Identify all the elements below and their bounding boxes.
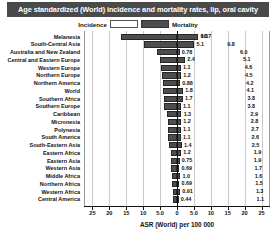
bar-value-mortality: 5.1 — [196, 41, 204, 48]
chart-legend: Incidence Mortality — [0, 19, 276, 29]
bar-incidence — [160, 57, 177, 63]
bar-incidence — [164, 103, 177, 109]
bar-value-mortality: 0.91 — [182, 188, 193, 195]
bar-incidence — [167, 111, 177, 117]
bar-value-incidence: 1.5 — [255, 180, 263, 187]
page-title: Age standardized (World) incidence and m… — [18, 5, 258, 14]
x-axis-title: ASR (World) per 100 000 — [84, 221, 270, 228]
bar-value-mortality: 0.44 — [181, 196, 192, 203]
bar-value-mortality: 2.4 — [187, 56, 195, 63]
bar-value-mortality: 0.69 — [182, 180, 193, 187]
bar-value-incidence: 2.8 — [251, 118, 259, 125]
bar-value-incidence: 1.6 — [255, 173, 263, 180]
legend-label-incidence: Incidence — [78, 21, 107, 28]
value-axis-ticks: 252015105.005.010152025 — [84, 207, 270, 217]
axis-tick-label: 15 — [123, 210, 129, 216]
legend-swatch-mortality — [141, 20, 169, 28]
axis-tick-label: 20 — [106, 210, 112, 216]
bar-incidence — [157, 49, 177, 55]
bar-incidence — [164, 96, 177, 102]
bar-value-incidence: 3.8 — [247, 95, 255, 102]
bar-value-incidence: 4.5 — [245, 72, 253, 79]
bar-value-incidence: 4.1 — [246, 87, 254, 94]
bar-incidence — [169, 142, 177, 148]
axis-tick-label: 25 — [89, 210, 95, 216]
bar-value-mortality: 1.2 — [183, 118, 191, 125]
plot-area: 16.76.39.85.16.00.785.12.44.61.14.51.24.… — [84, 31, 270, 207]
bar-value-incidence: 2.6 — [251, 134, 259, 141]
center-axis-line — [177, 31, 178, 207]
bar-incidence — [168, 134, 177, 140]
legend-label-mortality: Mortality — [172, 21, 198, 28]
bar-incidence — [163, 80, 177, 86]
bar-value-mortality: 0.69 — [182, 165, 193, 172]
axis-tick-label: 10 — [140, 210, 146, 216]
bar-value-incidence: 9.8 — [227, 41, 235, 48]
bar-value-mortality: 1.1 — [183, 103, 191, 110]
bar-value-incidence: 1.7 — [255, 165, 263, 172]
bar-incidence — [168, 119, 177, 125]
bar-value-incidence: 1.3 — [256, 188, 264, 195]
axis-tick-label: 25 — [258, 210, 264, 216]
bar-incidence — [121, 34, 177, 40]
bar-value-mortality: 1.1 — [183, 134, 191, 141]
axis-tick-label: 15 — [225, 210, 231, 216]
bar-incidence — [144, 41, 177, 47]
legend-swatch-incidence — [110, 20, 138, 28]
category-axis-labels: MelanesiaSouth-Central AsiaAustralia and… — [0, 31, 82, 207]
bar-value-incidence: 5.1 — [243, 56, 251, 63]
axis-tick-label: 10 — [208, 210, 214, 216]
bar-value-incidence: 1.9 — [254, 149, 262, 156]
bar-value-incidence: 4.6 — [245, 64, 253, 71]
bar-incidence — [161, 65, 177, 71]
bar-value-incidence: 1.9 — [254, 157, 262, 164]
bar-mortality — [177, 41, 194, 47]
bar-value-mortality: 0.75 — [182, 157, 193, 164]
bar-value-incidence: 2.5 — [252, 142, 260, 149]
bar-value-incidence: 6.0 — [240, 49, 248, 56]
bar-value-mortality: 1.0 — [183, 173, 191, 180]
bar-incidence — [163, 88, 177, 94]
axis-tick-label: 5.0 — [156, 210, 164, 216]
axis-tick-label: 20 — [242, 210, 248, 216]
bar-value-mortality: 1.7 — [185, 95, 193, 102]
bar-value-mortality: 1.1 — [183, 126, 191, 133]
chart-title-bar: Age standardized (World) incidence and m… — [7, 2, 269, 17]
bar-value-incidence: 3.8 — [247, 103, 255, 110]
bar-value-mortality: 0.88 — [182, 80, 193, 87]
bar-value-incidence: 4.2 — [246, 80, 254, 87]
bar-mortality — [177, 57, 185, 63]
bar-incidence — [162, 72, 177, 78]
axis-tick-label: 5.0 — [190, 210, 198, 216]
chart-container: Age standardized (World) incidence and m… — [0, 0, 276, 236]
bar-value-mortality: 1.2 — [183, 72, 191, 79]
bar-value-incidence: 1.1 — [257, 196, 265, 203]
bar-value-mortality: 1.1 — [183, 64, 191, 71]
bar-value-mortality: 6.3 — [201, 33, 209, 40]
axis-tick-label: 0 — [175, 210, 178, 216]
bar-mortality — [177, 34, 198, 40]
bar-value-incidence: 2.9 — [250, 111, 258, 118]
bar-incidence — [168, 127, 177, 133]
bar-value-incidence: 2.7 — [251, 126, 259, 133]
category-label: Central America — [38, 195, 80, 204]
bar-value-mortality: 1.8 — [185, 87, 193, 94]
bar-value-mortality: 1.4 — [184, 142, 192, 149]
bar-value-mortality: 1.2 — [183, 149, 191, 156]
bar-value-mortality: 1.3 — [184, 111, 192, 118]
bar-value-mortality: 0.78 — [182, 49, 193, 56]
